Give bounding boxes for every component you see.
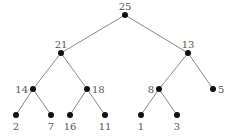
tree-node-1 bbox=[138, 112, 144, 118]
tree-node-7 bbox=[48, 112, 54, 118]
tree-node-13 bbox=[185, 50, 191, 56]
node-label-7: 7 bbox=[48, 121, 54, 132]
node-label-5: 5 bbox=[218, 84, 224, 95]
tree-node-11 bbox=[102, 112, 108, 118]
tree-edge-21-14 bbox=[33, 53, 61, 89]
node-label-8: 8 bbox=[148, 84, 154, 95]
labels-layer: 25211314188527161113 bbox=[13, 1, 225, 132]
node-label-13: 13 bbox=[182, 39, 195, 50]
tree-edge-14-7 bbox=[33, 89, 51, 115]
node-label-3: 3 bbox=[174, 121, 180, 132]
node-label-14: 14 bbox=[15, 84, 28, 95]
node-label-18: 18 bbox=[92, 84, 105, 95]
node-label-16: 16 bbox=[64, 121, 77, 132]
tree-node-16 bbox=[67, 112, 73, 118]
nodes-layer bbox=[13, 12, 216, 118]
tree-node-2 bbox=[13, 112, 19, 118]
node-label-25: 25 bbox=[119, 1, 132, 12]
tree-edge-25-13 bbox=[125, 15, 188, 53]
node-label-2: 2 bbox=[13, 121, 19, 132]
tree-node-8 bbox=[156, 86, 162, 92]
tree-node-25 bbox=[122, 12, 128, 18]
node-label-11: 11 bbox=[99, 121, 112, 132]
tree-edge-13-8 bbox=[159, 53, 188, 89]
tree-edge-13-5 bbox=[188, 53, 213, 89]
tree-node-18 bbox=[84, 86, 90, 92]
tree-node-14 bbox=[30, 86, 36, 92]
tree-node-5 bbox=[210, 86, 216, 92]
node-label-21: 21 bbox=[55, 39, 68, 50]
tree-edge-18-16 bbox=[70, 89, 87, 115]
tree-edge-25-21 bbox=[61, 15, 125, 53]
node-label-1: 1 bbox=[138, 121, 144, 132]
edges-layer bbox=[16, 15, 213, 115]
tree-node-21 bbox=[58, 50, 64, 56]
tree-node-3 bbox=[174, 112, 180, 118]
tree-edge-8-3 bbox=[159, 89, 177, 115]
tree-diagram: 25211314188527161113 bbox=[0, 0, 228, 138]
tree-edge-21-18 bbox=[61, 53, 87, 89]
